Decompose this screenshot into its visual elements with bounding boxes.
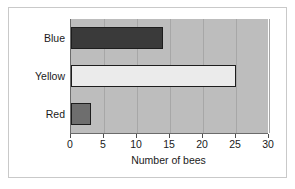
category-label-red: Red [7, 95, 65, 133]
x-tick-label: 0 [67, 138, 73, 150]
bar-blue [71, 27, 163, 49]
gridline [236, 19, 237, 133]
x-tick-label: 25 [229, 138, 241, 150]
x-tick-label: 20 [196, 138, 208, 150]
bar-red [71, 103, 91, 125]
bar-row: Red [71, 95, 91, 133]
bar-row: Blue [71, 19, 163, 57]
bar-row: Yellow [71, 57, 236, 95]
category-label-blue: Blue [7, 19, 65, 57]
category-label-yellow: Yellow [7, 57, 65, 95]
gridline [269, 19, 270, 133]
x-axis-title: Number of bees [70, 154, 267, 166]
x-tick-label: 30 [262, 138, 274, 150]
x-tick-label: 10 [130, 138, 142, 150]
chart-frame: BlueYellowRed 051015202530 Number of bee… [8, 7, 287, 178]
bar-yellow [71, 65, 236, 87]
x-axis-ticks: 051015202530 [70, 134, 267, 150]
x-tick-label: 15 [163, 138, 175, 150]
plot-area: BlueYellowRed [70, 19, 268, 134]
x-tick-label: 5 [100, 138, 106, 150]
